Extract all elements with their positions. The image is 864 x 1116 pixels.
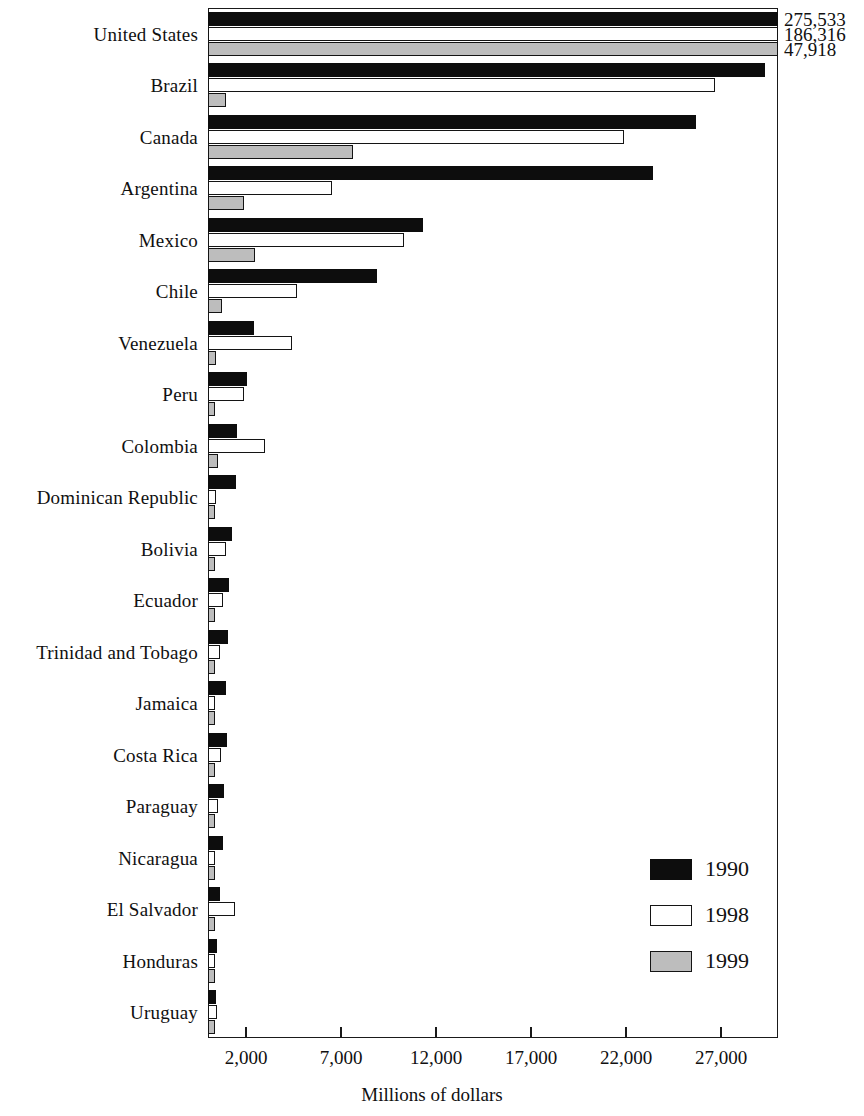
x-tick-7000 — [340, 1027, 342, 1038]
bar-1990-bolivia — [208, 527, 232, 541]
legend-item[interactable]: 1990 — [650, 852, 749, 886]
bar-1999-ecuador — [208, 608, 215, 622]
bar-1998-nicaragua — [208, 851, 215, 865]
legend-swatch-1999-icon — [650, 951, 692, 972]
bar-1999-chile — [208, 299, 222, 313]
category-label-jamaica: Jamaica — [135, 694, 198, 713]
bar-1999-el-salvador — [208, 917, 215, 931]
bar-1990-mexico — [208, 218, 423, 232]
bar-1990-paraguay — [208, 784, 224, 798]
bar-1998-jamaica — [208, 696, 215, 710]
bar-1999-united-states — [208, 42, 778, 56]
x-tick-27000 — [720, 1027, 722, 1038]
bar-1990-venezuela — [208, 321, 254, 335]
x-tick-17000 — [530, 1027, 532, 1038]
bar-1990-ecuador — [208, 578, 229, 592]
category-label-el-salvador: El Salvador — [107, 900, 198, 919]
legend-swatch-1998-icon — [650, 905, 692, 926]
bar-1998-canada — [208, 130, 624, 144]
bar-1999-canada — [208, 145, 353, 159]
bar-1998-uruguay — [208, 1005, 217, 1019]
bar-1999-dominican-republic — [208, 505, 215, 519]
bar-1990-uruguay — [208, 990, 216, 1004]
bar-1999-nicaragua — [208, 866, 215, 880]
bar-1999-trinidad-and-tobago — [208, 660, 215, 674]
bar-1998-venezuela — [208, 336, 292, 350]
bar-1990-united-states — [208, 12, 778, 26]
bar-1990-el-salvador — [208, 887, 220, 901]
bar-1990-costa-rica — [208, 733, 227, 747]
category-label-costa-rica: Costa Rica — [113, 746, 198, 765]
horizontal-bar-chart: United StatesBrazilCanadaArgentinaMexico… — [0, 0, 864, 1116]
bar-1999-mexico — [208, 248, 255, 262]
category-label-paraguay: Paraguay — [126, 797, 198, 816]
bar-1999-brazil — [208, 93, 226, 107]
bar-1999-jamaica — [208, 711, 215, 725]
bar-1998-paraguay — [208, 799, 218, 813]
category-label-ecuador: Ecuador — [133, 591, 198, 610]
x-tick-label-27000: 27,000 — [695, 1048, 747, 1067]
category-label-peru: Peru — [162, 385, 198, 404]
bar-1990-peru — [208, 372, 247, 386]
bar-1998-costa-rica — [208, 748, 221, 762]
bar-1999-colombia — [208, 454, 218, 468]
bar-1990-colombia — [208, 424, 237, 438]
bar-1990-nicaragua — [208, 836, 223, 850]
category-label-nicaragua: Nicaragua — [118, 849, 198, 868]
value-callout-1999: 47,918 — [784, 40, 836, 59]
bar-1999-bolivia — [208, 557, 215, 571]
category-label-dominican-republic: Dominican Republic — [37, 488, 198, 507]
category-label-honduras: Honduras — [123, 952, 198, 971]
x-tick-12000 — [435, 1027, 437, 1038]
bar-1990-canada — [208, 115, 696, 129]
bar-1990-dominican-republic — [208, 475, 236, 489]
bar-1998-colombia — [208, 439, 265, 453]
x-tick-22000 — [625, 1027, 627, 1038]
x-axis-title: Millions of dollars — [0, 1085, 864, 1104]
category-label-venezuela: Venezuela — [118, 334, 198, 353]
bar-1990-honduras — [208, 939, 217, 953]
bar-1998-argentina — [208, 181, 332, 195]
legend: 1990 1998 1999 — [650, 852, 749, 990]
legend-label-1990: 1990 — [705, 858, 749, 880]
bar-1998-bolivia — [208, 542, 226, 556]
legend-label-1999: 1999 — [705, 950, 749, 972]
bar-1998-honduras — [208, 954, 215, 968]
x-tick-label-12000: 12,000 — [410, 1048, 462, 1067]
bar-1998-brazil — [208, 78, 715, 92]
bar-1998-united-states — [208, 27, 778, 41]
legend-swatch-1990-icon — [650, 859, 692, 880]
bar-1999-paraguay — [208, 814, 215, 828]
category-label-colombia: Colombia — [121, 437, 198, 456]
bar-1999-honduras — [208, 969, 215, 983]
bar-1998-dominican-republic — [208, 490, 216, 504]
bar-1999-argentina — [208, 196, 244, 210]
bar-1990-jamaica — [208, 681, 226, 695]
x-tick-label-17000: 17,000 — [505, 1048, 557, 1067]
bar-1999-venezuela — [208, 351, 216, 365]
category-label-canada: Canada — [140, 128, 198, 147]
bar-1998-peru — [208, 387, 244, 401]
category-label-argentina: Argentina — [121, 179, 198, 198]
legend-item[interactable]: 1998 — [650, 898, 749, 932]
x-tick-label-7000: 7,000 — [320, 1048, 363, 1067]
bar-1990-argentina — [208, 166, 653, 180]
category-label-bolivia: Bolivia — [141, 540, 198, 559]
bar-1990-chile — [208, 269, 377, 283]
bar-1998-mexico — [208, 233, 404, 247]
category-label-chile: Chile — [156, 282, 198, 301]
bar-1998-ecuador — [208, 593, 223, 607]
bar-1990-brazil — [208, 63, 765, 77]
bar-1998-el-salvador — [208, 902, 235, 916]
category-label-mexico: Mexico — [139, 231, 198, 250]
bar-1990-trinidad-and-tobago — [208, 630, 228, 644]
x-tick-label-2000: 2,000 — [225, 1048, 268, 1067]
x-tick-label-22000: 22,000 — [600, 1048, 652, 1067]
legend-label-1998: 1998 — [705, 904, 749, 926]
bar-1998-chile — [208, 284, 297, 298]
legend-item[interactable]: 1999 — [650, 944, 749, 978]
category-label-brazil: Brazil — [150, 76, 198, 95]
bar-1999-uruguay — [208, 1020, 215, 1034]
bar-1998-trinidad-and-tobago — [208, 645, 220, 659]
bar-1999-costa-rica — [208, 763, 215, 777]
